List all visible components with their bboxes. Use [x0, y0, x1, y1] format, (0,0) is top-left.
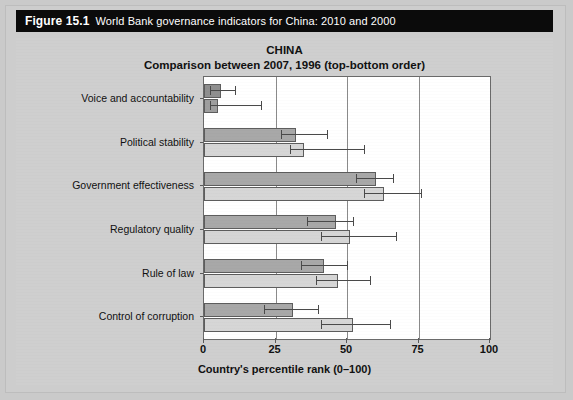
error-bar-cap [390, 320, 391, 329]
bar-row [204, 99, 490, 113]
error-bar-line [321, 324, 390, 325]
error-bar [204, 318, 490, 332]
error-bar [204, 230, 490, 244]
error-bar-line [281, 134, 327, 135]
error-bar-line [264, 309, 318, 310]
x-axis-tick-labels: 0255075100 [203, 343, 489, 359]
bar-row [204, 143, 490, 157]
error-bar-cap [316, 276, 317, 285]
error-bar-line [316, 280, 370, 281]
figure-page: Figure 15.1 World Bank governance indica… [0, 0, 573, 400]
x-axis-tick-mark [489, 338, 490, 343]
error-bar-line [321, 236, 395, 237]
x-axis-tick-label: 50 [340, 343, 352, 355]
bar-row [204, 259, 490, 273]
x-axis-tick-label: 0 [200, 343, 206, 355]
error-bar-cap [301, 261, 302, 270]
x-axis-tick-label: 25 [268, 343, 280, 355]
error-bar-cap [364, 145, 365, 154]
error-bar-cap [364, 189, 365, 198]
y-axis-label: Rule of law [142, 267, 194, 279]
error-bar [204, 187, 490, 201]
y-axis-label: Voice and accountability [81, 92, 194, 104]
error-bar-cap [307, 217, 308, 226]
bar-row [204, 303, 490, 317]
error-bar-cap [356, 174, 357, 183]
error-bar-cap [421, 189, 422, 198]
figure-number: Figure 15.1 [25, 14, 89, 28]
error-bar-cap [321, 320, 322, 329]
error-bar [204, 172, 490, 186]
bar-row [204, 84, 490, 98]
error-bar-line [210, 90, 236, 91]
y-axis-label: Political stability [120, 136, 194, 148]
error-bar-cap [318, 305, 319, 314]
error-bar [204, 303, 490, 317]
error-bar-cap [281, 130, 282, 139]
bar-row [204, 230, 490, 244]
y-axis-label: Control of corruption [99, 310, 194, 322]
chart-title: CHINA [16, 44, 553, 56]
x-axis-tick-mark [275, 338, 276, 343]
x-axis-tick-mark [203, 338, 204, 343]
x-axis-tick-mark [346, 338, 347, 343]
error-bar-cap [353, 217, 354, 226]
error-bar [204, 274, 490, 288]
error-bar-cap [210, 101, 211, 110]
chart-subtitle: Comparison between 2007, 1996 (top-botto… [16, 59, 553, 71]
y-axis-label: Regulatory quality [110, 223, 194, 235]
error-bar [204, 99, 490, 113]
error-bar-cap [370, 276, 371, 285]
bar-row [204, 128, 490, 142]
error-bar [204, 259, 490, 273]
error-bar [204, 128, 490, 142]
error-bar-line [356, 178, 393, 179]
error-bar-cap [393, 174, 394, 183]
figure-panel: CHINA Comparison between 2007, 1996 (top… [16, 38, 553, 386]
error-bar [204, 215, 490, 229]
error-bar-cap [210, 86, 211, 95]
gridline [276, 77, 277, 339]
bar-row [204, 187, 490, 201]
error-bar-line [290, 149, 364, 150]
error-bar-cap [327, 130, 328, 139]
error-bar-line [301, 265, 347, 266]
x-axis-tick-label: 75 [411, 343, 423, 355]
x-axis-tick-mark [418, 338, 419, 343]
gridline [419, 77, 420, 339]
bar-row [204, 318, 490, 332]
x-axis-title: Country's percentile rank (0–100) [16, 363, 553, 375]
error-bar-cap [321, 232, 322, 241]
x-axis-tick-label: 100 [480, 343, 498, 355]
error-bar-cap [264, 305, 265, 314]
figure-caption-text: World Bank governance indicators for Chi… [95, 15, 395, 27]
error-bar-line [307, 221, 353, 222]
error-bar-line [364, 193, 421, 194]
gridline [347, 77, 348, 339]
error-bar [204, 84, 490, 98]
error-bar-line [210, 105, 261, 106]
y-axis-label: Government effectiveness [72, 179, 194, 191]
error-bar-cap [290, 145, 291, 154]
error-bar-cap [261, 101, 262, 110]
bar-row [204, 215, 490, 229]
bar-row [204, 172, 490, 186]
y-axis-labels: Voice and accountabilityPolitical stabil… [16, 76, 200, 338]
figure-caption-bar: Figure 15.1 World Bank governance indica… [16, 10, 553, 32]
plot-area [203, 76, 491, 340]
error-bar [204, 143, 490, 157]
error-bar-cap [396, 232, 397, 241]
bar-row [204, 274, 490, 288]
error-bar-cap [235, 86, 236, 95]
error-bar-cap [347, 261, 348, 270]
